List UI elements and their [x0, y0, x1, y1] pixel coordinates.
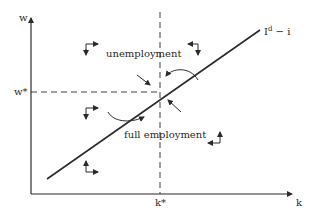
direction-arrows-lower-left — [86, 161, 98, 172]
region-label-full-employment: full employment — [124, 129, 206, 140]
arrow-to-equilibrium-upper — [137, 75, 150, 85]
curve-label: Id − i — [264, 25, 290, 37]
k-star-label: k* — [155, 197, 166, 208]
direction-arrows-upper-right — [188, 44, 198, 55]
y-axis-label: w — [19, 12, 28, 23]
region-label-unemployment: unemployment — [106, 48, 181, 59]
arrow-to-equilibrium-lower — [168, 100, 181, 112]
phase-diagram: w w* k* k Id − i unemployment full emplo… — [0, 0, 319, 219]
curved-arrow-upper-right — [166, 70, 198, 80]
w-star-label: w* — [14, 86, 28, 97]
direction-arrows-upper-left — [86, 44, 98, 55]
direction-arrows-lower-right — [208, 132, 220, 143]
x-axis-label: k — [296, 197, 302, 208]
curve-label-suffix: − i — [272, 26, 290, 37]
direction-arrows-left-middle — [86, 108, 98, 119]
curved-arrow-lower-left — [108, 112, 144, 121]
